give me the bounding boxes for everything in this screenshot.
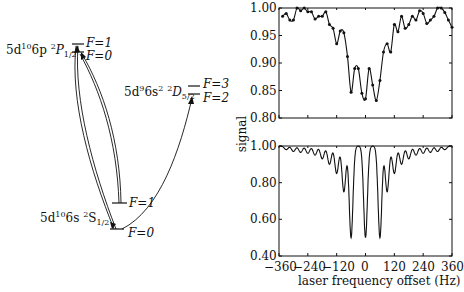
label-p-state: 5d106p 2P1/2 (6, 44, 77, 56)
bottom-ytick-0: 1.00 (250, 140, 277, 152)
xtick-3: 0 (361, 261, 369, 273)
transition-s1-p0-b (82, 54, 121, 203)
transition-s0-p1-b (77, 46, 116, 229)
top-plot (279, 7, 454, 119)
top-ytick-0: 1.00 (250, 2, 277, 14)
bottom-plot (279, 146, 452, 256)
label-p-f1: F=1 (86, 37, 112, 49)
label-s-state: 5d106s 2S1/2 (40, 212, 109, 224)
bottom-ytick-1: 0.80 (250, 177, 277, 189)
xtick-5: 240 (412, 261, 435, 273)
transition-s1-p0-a (80, 54, 119, 203)
top-plot-curve (283, 7, 452, 100)
bottom-ytick-2: 0.60 (250, 213, 277, 225)
top-ytick-2: 0.90 (250, 57, 277, 69)
bottom-plot-curve (279, 146, 452, 238)
label-p-f0: F=0 (86, 50, 112, 62)
bottom-plot-frame (279, 146, 452, 256)
label-d-f2: F=2 (203, 92, 229, 104)
xtick-4: 120 (383, 261, 406, 273)
label-s-f1: F=1 (129, 197, 155, 209)
top-ytick-4: 0.80 (250, 112, 277, 124)
top-ytick-1: 0.95 (250, 30, 277, 42)
transition-s0-p1-a (75, 46, 114, 229)
label-s-f0: F=0 (128, 227, 154, 239)
xtick-2: −120 (322, 261, 355, 273)
label-d-f3: F=3 (203, 78, 229, 90)
bottom-plot-ticks (279, 146, 452, 256)
y-axis-label: signal (236, 116, 248, 152)
xtick-6: 360 (441, 261, 464, 273)
label-d-state: 5d96s2 2D5/2 (124, 86, 195, 98)
top-ytick-3: 0.85 (250, 85, 277, 97)
x-axis-label: laser frequency offset (Hz) (298, 275, 460, 287)
